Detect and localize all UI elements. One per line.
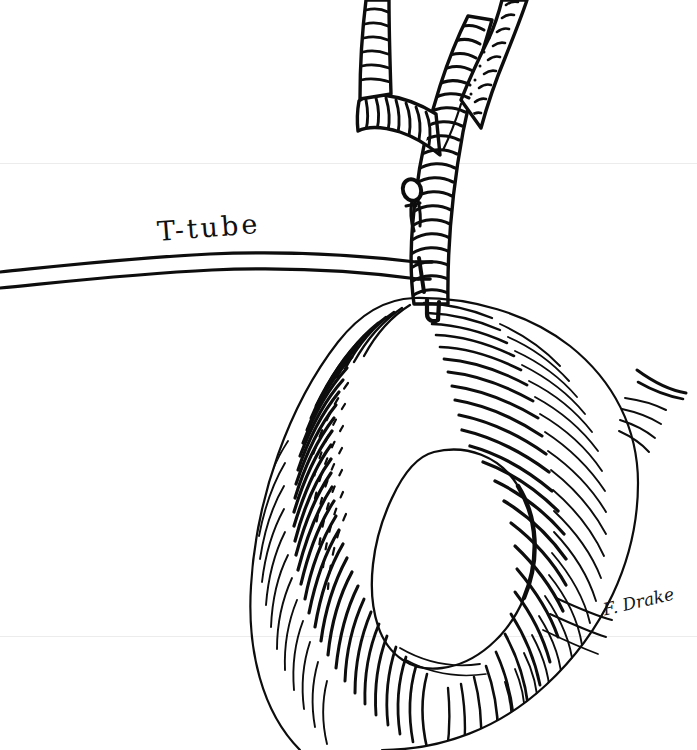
t-tube-group <box>0 253 432 292</box>
duodenal-flap-notch <box>619 370 686 452</box>
suture-knot-group <box>400 177 424 231</box>
duodenum-inner-lumen-outline <box>372 450 535 669</box>
left-hepatic-duct-stub-outline <box>360 0 391 99</box>
anatomical-line-drawing <box>0 0 697 750</box>
illustration-canvas: T-tube F. Drake <box>0 0 697 750</box>
duodenum-group <box>250 298 686 750</box>
t-tube-lower-wall <box>0 269 418 288</box>
